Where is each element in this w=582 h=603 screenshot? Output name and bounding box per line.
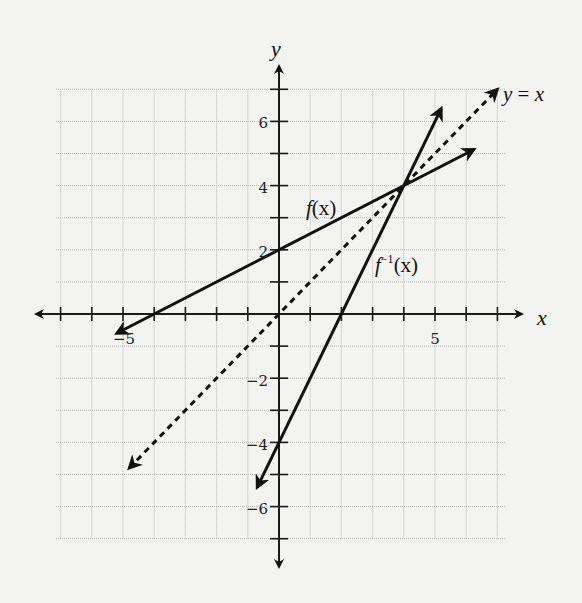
identity-line-y-equals-x <box>129 89 497 468</box>
y-tick-label-neg6: −6 <box>246 500 268 518</box>
y-tick-label-neg4: −4 <box>246 436 268 454</box>
x-tick-label-neg5: −5 <box>113 330 135 348</box>
function-line-f-inverse <box>257 109 441 488</box>
label-f-of-x: f(x) <box>306 196 336 220</box>
y-axis-label: y <box>269 36 281 61</box>
y-tick-label-neg2: −2 <box>246 372 268 390</box>
y-tick-label-2: 2 <box>258 243 268 261</box>
label-f-inverse-of-x: f−1(x) <box>375 252 418 277</box>
x-tick-label-5: 5 <box>430 330 440 348</box>
x-axis-label: x <box>536 305 547 330</box>
curves <box>117 89 498 487</box>
label-y-equals-x: y = x <box>501 82 545 106</box>
y-tick-label-4: 4 <box>258 179 268 197</box>
graph-canvas: x y −5 5 6 4 2 −2 −4 −6 f(x) f−1(x) y = … <box>0 0 582 603</box>
y-tick-label-6: 6 <box>258 114 268 132</box>
function-line-f <box>117 149 474 333</box>
